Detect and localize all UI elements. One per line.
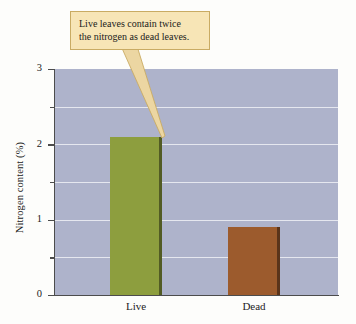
x-axis-line — [48, 295, 339, 296]
y-tick-0_5 — [50, 257, 55, 258]
bar-chart-figure: 3 2 1 0 Nitrogen content (%) Live Dead L… — [0, 0, 356, 324]
x-tick-label-dead: Dead — [214, 300, 294, 312]
x-tick-label-live: Live — [96, 300, 176, 312]
y-tick-label-1: 1 — [26, 214, 42, 225]
gridline-1_5 — [55, 182, 338, 183]
y-axis-title: Nitrogen content (%) — [14, 118, 25, 258]
bar-live-face — [110, 137, 162, 295]
gridline-1 — [55, 220, 338, 221]
bar-dead-face — [228, 227, 280, 295]
y-tick-1 — [48, 220, 55, 221]
bar-live — [110, 137, 162, 295]
callout-line-2: the nitrogen as dead leaves. — [79, 30, 202, 43]
y-tick-0 — [48, 295, 55, 296]
bar-dead — [228, 227, 280, 295]
y-tick-label-0: 0 — [26, 289, 42, 300]
y-tick-3 — [48, 69, 55, 70]
y-tick-2 — [48, 144, 55, 145]
callout-annotation: Live leaves contain twice the nitrogen a… — [70, 11, 210, 50]
bar-dead-edge — [277, 227, 280, 295]
y-tick-label-2: 2 — [26, 139, 42, 150]
y-tick-2_5 — [50, 107, 55, 108]
y-tick-1_5 — [50, 182, 55, 183]
bar-live-edge — [159, 137, 162, 295]
gridline-0_5 — [55, 257, 338, 258]
plot-area — [55, 69, 338, 295]
gridline-2 — [55, 144, 338, 145]
callout-line-1: Live leaves contain twice — [79, 17, 202, 30]
gridline-2_5 — [55, 107, 338, 108]
y-tick-label-3: 3 — [26, 63, 42, 74]
